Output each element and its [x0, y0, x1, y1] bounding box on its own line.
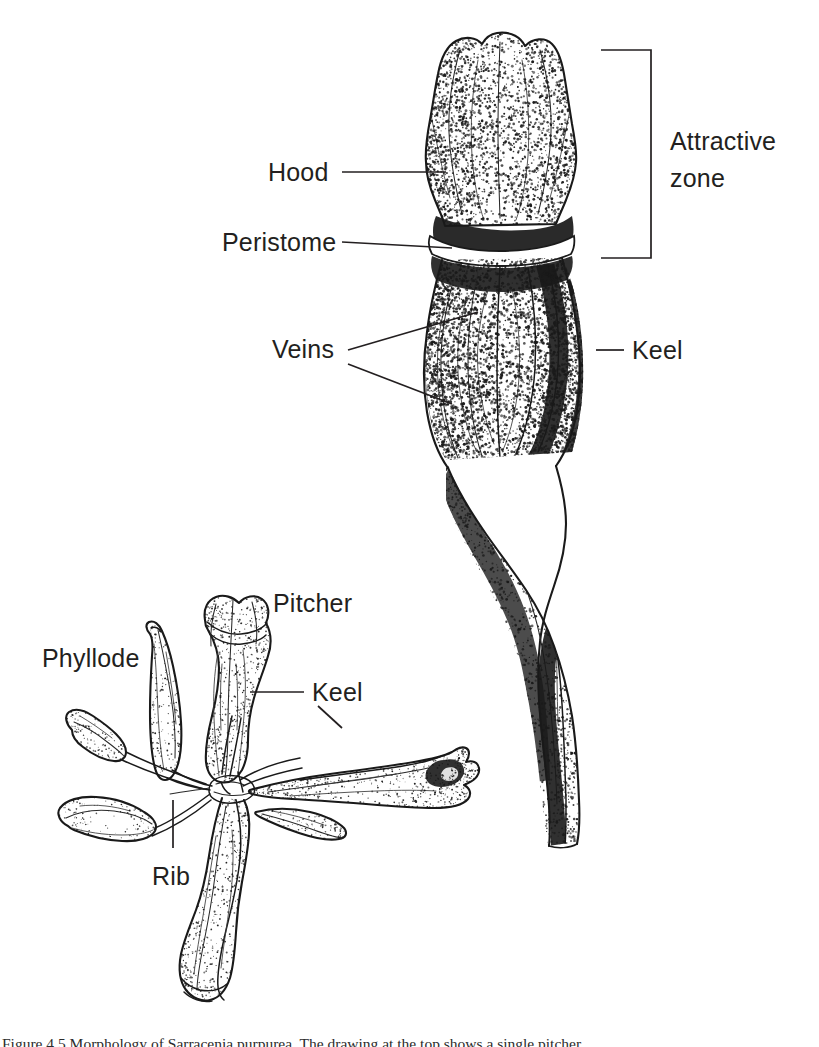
phyllode-erect-stipple: [141, 617, 188, 786]
plant-rosette-lower: Hood Peristome Attractive zone Veins Kee…: [42, 50, 776, 1007]
callout-labels: Hood Peristome Attractive zone Veins Kee…: [42, 127, 776, 890]
hood-stipple: [419, 29, 597, 231]
figure-caption: Figure 4.5 Morphology of Sarracenia purp…: [0, 1036, 819, 1047]
label-peristome: Peristome: [222, 228, 336, 256]
leaf-keeled-right: Hood Peristome Attractive zone Veins Kee…: [42, 50, 776, 1007]
figure-caption-text: Figure 4.5 Morphology of Sarracenia purp…: [0, 1036, 819, 1047]
leader-keel-lower-branch: [318, 706, 342, 728]
pitcher-diagram-upper: [412, 29, 596, 851]
phyllode-upper-left: [59, 706, 206, 789]
figure-plate: Hood Peristome Attractive zone Veins Kee…: [0, 0, 819, 1047]
label-pitcher: Pitcher: [273, 589, 352, 617]
label-keel-lower: Keel: [312, 678, 363, 706]
pitcher-right: Hood Peristome Attractive zone Veins Kee…: [42, 50, 776, 1007]
phyllode-upper-left-stipple: [59, 706, 132, 767]
lower-tube-stipple: [434, 454, 591, 851]
label-rib: Rib: [152, 862, 190, 890]
pitcher-hanging-stipple: [175, 793, 257, 1007]
attractive-zone-bracket: [601, 50, 651, 258]
pitcher-tube-lower: [434, 454, 591, 851]
label-attractive-zone-line1: Attractive: [670, 127, 776, 155]
phyllode-lower-left: [54, 793, 211, 846]
label-phyllode: Phyllode: [42, 644, 140, 672]
label-attractive-zone-line2: zone: [670, 164, 725, 192]
hood-structure: [418, 29, 596, 231]
label-hood: Hood: [268, 158, 329, 186]
label-veins: Veins: [272, 335, 334, 363]
botanical-illustration: Hood Peristome Attractive zone Veins Kee…: [0, 0, 819, 1047]
label-keel-upper: Keel: [632, 336, 683, 364]
